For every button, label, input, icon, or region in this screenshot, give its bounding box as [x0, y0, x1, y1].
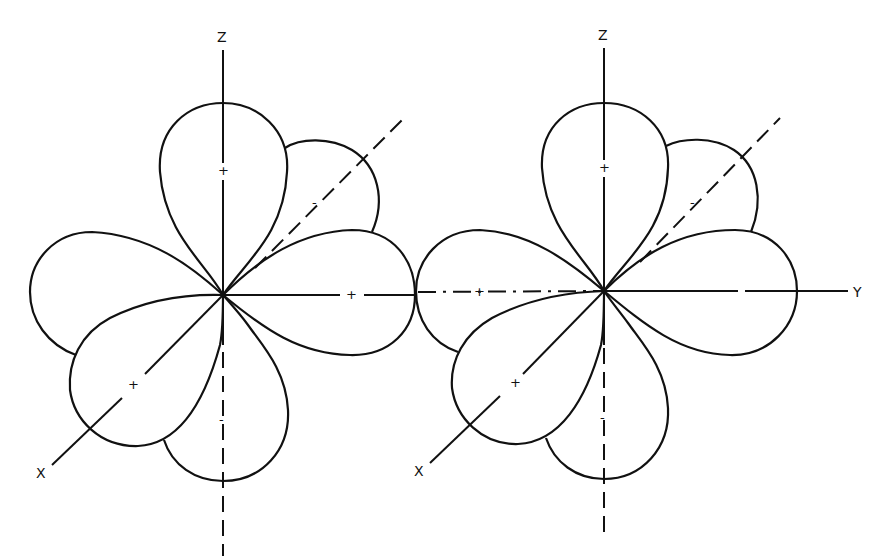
right-left-lobe-sign: +	[474, 284, 485, 299]
left-right-lobe-sign: +	[346, 287, 357, 302]
right-bottom-lobe-sign: -	[600, 410, 605, 425]
right-orbital-diagram: Z X Y + - + + -	[414, 27, 862, 535]
right-right-lobe	[604, 230, 797, 355]
left-orbital-diagram: Z X + - + + -	[30, 29, 415, 556]
right-back-diagonal-lobe	[666, 140, 758, 232]
left-bottom-lobe-sign: -	[219, 412, 224, 427]
right-diagonal-axis	[640, 118, 780, 262]
left-x-axis	[145, 295, 223, 374]
left-back-diagonal-lobe	[285, 140, 379, 232]
right-top-lobe-sign: +	[599, 160, 610, 175]
right-front-lobe-sign: +	[510, 375, 521, 390]
right-y-axis-label: Y	[852, 284, 862, 300]
left-x-axis-label: X	[36, 465, 46, 481]
left-x-axis-lower	[52, 398, 122, 465]
left-front-lobe-sign: +	[128, 377, 139, 392]
right-x-axis-lower	[430, 396, 500, 463]
left-top-lobe-sign: +	[218, 163, 229, 178]
right-x-axis-label: X	[414, 463, 424, 479]
left-bottom-lobe	[164, 295, 288, 481]
left-left-lobe	[30, 232, 223, 355]
right-back-lobe-sign: -	[690, 195, 695, 210]
left-z-axis-label: Z	[217, 29, 227, 45]
right-x-axis	[523, 291, 604, 374]
left-back-lobe-sign: -	[312, 195, 317, 210]
right-y-axis-left	[418, 291, 604, 292]
orbital-diagram-figure: Z X + - + + - Z	[0, 0, 882, 556]
right-z-axis-label: Z	[598, 27, 608, 43]
left-diagonal-axis	[255, 118, 404, 268]
right-bottom-lobe	[546, 291, 668, 479]
left-right-lobe	[223, 230, 415, 355]
